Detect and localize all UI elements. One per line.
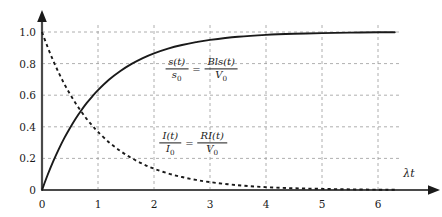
- displacement-rhs: Bls(t) V0: [205, 57, 239, 82]
- displacement-rhs-numerator: Bls(t): [205, 57, 239, 69]
- x-tick-label: 0: [39, 199, 46, 210]
- plot-canvas: [0, 0, 442, 217]
- displacement-lhs-numerator: s(t): [165, 57, 188, 69]
- displacement-formula: s(t) s0 = Bls(t) V0: [164, 57, 239, 82]
- current-rhs-denominator: V0: [203, 144, 221, 157]
- displacement-lhs-denominator: s0: [169, 69, 185, 82]
- current-rhs-numerator: RI(t): [198, 132, 227, 144]
- current-equals: =: [185, 139, 193, 149]
- chart-figure: 00.20.40.60.81.0 0123456 λt s(t) s0 = Bl…: [0, 0, 442, 217]
- y-tick-label: 1.0: [19, 27, 36, 38]
- x-axis-title: λt: [403, 167, 414, 180]
- gridlines: [42, 24, 400, 190]
- y-tick-label: 0: [29, 185, 36, 196]
- current-lhs-denominator: I0: [163, 144, 178, 157]
- current-formula: I(t) I0 = RI(t) V0: [158, 132, 227, 157]
- x-tick-label: 1: [95, 199, 102, 210]
- displacement-equals: =: [192, 65, 200, 75]
- current-lhs-numerator: I(t): [159, 132, 181, 144]
- x-tick-label: 6: [375, 199, 382, 210]
- y-tick-label: 0.8: [19, 58, 36, 69]
- x-tick-label: 2: [151, 199, 158, 210]
- current-rhs: RI(t) V0: [198, 132, 227, 157]
- current-lhs: I(t) I0: [159, 132, 181, 157]
- x-tick-label: 4: [263, 199, 270, 210]
- y-tick-label: 0.4: [19, 122, 36, 133]
- x-tick-label: 3: [207, 199, 214, 210]
- displacement-rhs-denominator: V0: [212, 69, 230, 82]
- y-tick-label: 0.2: [19, 153, 36, 164]
- x-tick-label: 5: [319, 199, 326, 210]
- displacement-lhs: s(t) s0: [165, 57, 188, 82]
- y-tick-label: 0.6: [19, 90, 36, 101]
